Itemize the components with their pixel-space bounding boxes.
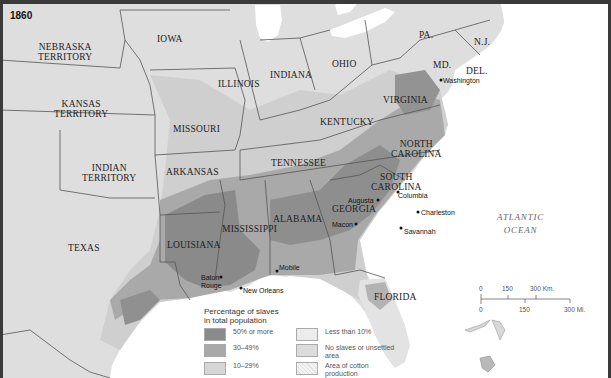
map-frame-left xyxy=(0,0,3,378)
map-frame-top xyxy=(0,0,611,4)
legend-swatch xyxy=(296,344,318,357)
label-nj: N.J. xyxy=(474,37,490,47)
legend-swatch xyxy=(204,362,226,375)
label-virginia: VIRGINIA xyxy=(383,95,428,105)
city-macon: Macon xyxy=(332,221,353,229)
legend-item-10-29: 10–29% xyxy=(204,362,296,377)
slavery-1860-map: 1860 NEBRASKATERRITORY KANSASTERRITORY I… xyxy=(0,0,611,378)
city-mobile: Mobile xyxy=(279,264,300,272)
city-columbia: Columbia xyxy=(398,192,428,200)
legend-swatch xyxy=(204,344,226,357)
label-atlantic-ocean: ATLANTICOCEAN xyxy=(497,211,544,237)
label-pa: PA. xyxy=(419,30,433,40)
label-indiana: INDIANA xyxy=(270,70,312,80)
city-new-orleans: New Orleans xyxy=(243,287,283,295)
city-charleston: Charleston xyxy=(421,209,455,217)
label-ohio: OHIO xyxy=(332,59,357,69)
city-washington: Washington xyxy=(443,77,480,85)
label-md: MD. xyxy=(433,60,451,70)
legend-title: Percentage of slavesin total population xyxy=(204,307,404,325)
legend-item-cotton: Area of cotton production xyxy=(296,362,404,377)
label-kentucky: KENTUCKY xyxy=(320,117,374,127)
label-missouri: MISSOURI xyxy=(173,124,220,134)
label-mississippi: MISSISSIPPI xyxy=(222,224,277,234)
legend-item-less-than-10: Less than 10% xyxy=(296,328,404,341)
scale-km-300: 300 Km. xyxy=(530,285,554,292)
city-savannah: Savannah xyxy=(404,228,436,236)
scale-bar-labels: 0 150 300 Km. 0 150 300 Mi. xyxy=(477,282,597,322)
legend-item-50-plus: 50% or more xyxy=(204,328,296,341)
label-arkansas: ARKANSAS xyxy=(166,167,219,177)
label-illinois: ILLINOIS xyxy=(218,79,260,89)
label-south-carolina: SOUTHCAROLINA xyxy=(371,172,422,192)
label-florida: FLORIDA xyxy=(374,292,417,302)
label-louisiana: LOUISIANA xyxy=(167,240,221,250)
label-kansas-territory: KANSASTERRITORY xyxy=(54,99,108,119)
label-georgia: GEORGIA xyxy=(332,204,376,214)
legend-swatch xyxy=(296,328,318,341)
label-del: DEL. xyxy=(466,66,488,76)
scale-km-150: 150 xyxy=(502,285,513,292)
legend-swatch xyxy=(296,362,318,375)
label-indian-territory: INDIANTERRITORY xyxy=(82,163,136,183)
legend-item-no-slaves: No slaves or unsettled area xyxy=(296,344,404,359)
label-alabama: ALABAMA xyxy=(273,214,322,224)
legend-swatch xyxy=(204,328,226,341)
legend-item-30-49: 30–49% xyxy=(204,344,296,359)
map-legend: Percentage of slavesin total population … xyxy=(204,307,404,377)
scale-mi-300: 300 Mi. xyxy=(564,306,585,313)
scale-mi-150: 150 xyxy=(519,306,530,313)
label-texas: TEXAS xyxy=(68,243,100,253)
label-tennessee: TENNESSEE xyxy=(271,158,326,168)
city-augusta: Augusta xyxy=(348,197,374,205)
city-baton-rouge: BatonRouge xyxy=(201,274,222,290)
scale-mi-0: 0 xyxy=(479,306,483,313)
label-nebraska-territory: NEBRASKATERRITORY xyxy=(38,42,92,62)
label-north-carolina: NORTHCAROLINA xyxy=(391,139,442,159)
label-iowa: IOWA xyxy=(157,34,183,44)
scale-km-0: 0 xyxy=(479,285,483,292)
map-year: 1860 xyxy=(10,10,32,21)
